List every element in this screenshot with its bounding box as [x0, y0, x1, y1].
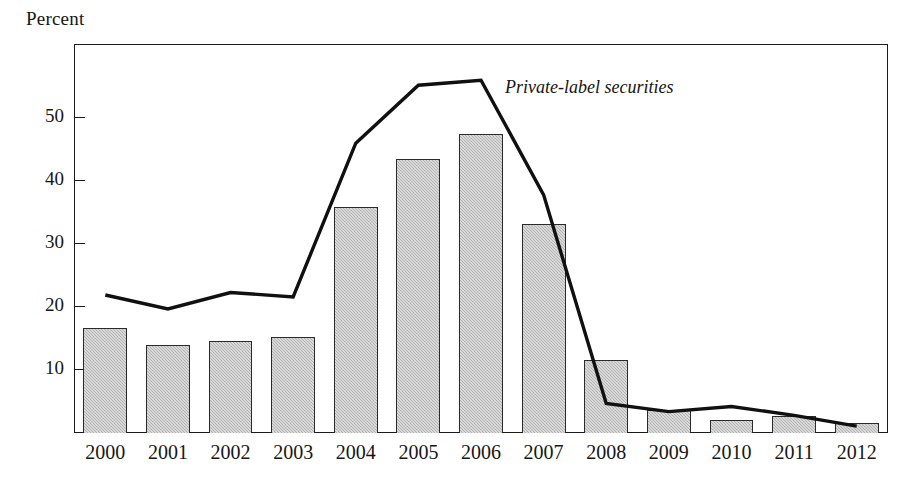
- bar: [835, 423, 879, 433]
- x-tick-label: 2004: [322, 441, 390, 464]
- bar: [459, 134, 503, 433]
- x-tick-label: 2003: [259, 441, 327, 464]
- x-tick-label: 2007: [510, 441, 578, 464]
- x-tick-label: 2008: [572, 441, 640, 464]
- bar: [334, 207, 378, 433]
- y-tick-label: 20: [18, 294, 64, 316]
- bar: [209, 341, 253, 433]
- bar: [584, 360, 628, 433]
- y-tick-label: 10: [18, 357, 64, 379]
- bar: [83, 328, 127, 433]
- x-tick-label: 2000: [71, 441, 139, 464]
- x-tick-label: 2010: [697, 441, 765, 464]
- bar-series: [74, 44, 888, 433]
- bar: [710, 420, 754, 433]
- y-tick-label: 40: [18, 168, 64, 190]
- bar: [647, 410, 691, 433]
- y-tick-label: 30: [18, 231, 64, 253]
- x-tick-label: 2006: [447, 441, 515, 464]
- x-tick-label: 2005: [384, 441, 452, 464]
- bar: [522, 224, 566, 433]
- x-tick-label: 2012: [823, 441, 891, 464]
- bar: [772, 416, 816, 433]
- x-tick-label: 2002: [197, 441, 265, 464]
- x-tick-label: 2001: [134, 441, 202, 464]
- series-label-private-label-securities: Private-label securities: [505, 77, 673, 98]
- x-tick-label: 2011: [760, 441, 828, 464]
- x-tick-label: 2009: [635, 441, 703, 464]
- chart-container: Percent 1020304050 Private-label securit…: [0, 0, 902, 489]
- y-axis-caption: Percent: [26, 8, 84, 30]
- bar: [396, 159, 440, 433]
- bar: [146, 345, 190, 433]
- y-tick-label: 50: [18, 105, 64, 127]
- bar: [271, 337, 315, 433]
